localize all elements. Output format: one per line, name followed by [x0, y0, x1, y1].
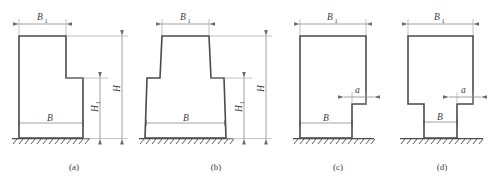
panel-a-label-h: H — [112, 84, 122, 93]
panel-b-label-b1-subscript: 1 — [188, 17, 191, 24]
panel-a-ground-hatching — [13, 139, 89, 144]
figure-svg-canvas: B 1 B H — [0, 0, 495, 186]
panel-c-label-a: a — [355, 85, 360, 95]
panel-d: B 1 a B (d) — [400, 12, 483, 172]
panel-d-label-a: a — [461, 85, 466, 95]
panel-a-caption: (a) — [69, 162, 79, 172]
panel-a-label-b1: B — [37, 12, 43, 22]
panel-b: B 1 B — [139, 12, 272, 172]
panel-a-label-b: B — [47, 113, 53, 123]
panel-a-label-b1-subscript: 1 — [45, 17, 48, 24]
panel-b-label-h: H — [256, 84, 266, 93]
panel-b-ground-hatching — [140, 139, 234, 144]
panel-b-label-b1: B — [180, 12, 186, 22]
panel-b-label-b: B — [183, 113, 189, 123]
panel-c-label-b1-subscript: 1 — [335, 17, 338, 24]
panel-c: B 1 a B (c) — [293, 12, 375, 172]
panel-c-ground-hatching — [294, 139, 375, 144]
panel-d-label-b1-subscript: 1 — [442, 17, 445, 24]
panel-c-caption: (c) — [333, 162, 343, 172]
engineering-figure-container: B 1 B H — [0, 0, 495, 186]
panel-c-label-b: B — [323, 113, 329, 123]
panel-d-label-b: B — [437, 112, 443, 122]
panel-a-label-h1-subscript: 1 — [94, 101, 101, 104]
panel-d-caption: (d) — [437, 162, 448, 172]
panel-a: B 1 B H — [12, 12, 128, 172]
panel-d-ground-hatching — [401, 139, 483, 144]
panel-c-label-b1: B — [327, 12, 333, 22]
panel-b-caption: (b) — [211, 162, 222, 172]
panel-b-label-h1-subscript: 1 — [238, 101, 245, 104]
panel-d-label-b1: B — [434, 12, 440, 22]
